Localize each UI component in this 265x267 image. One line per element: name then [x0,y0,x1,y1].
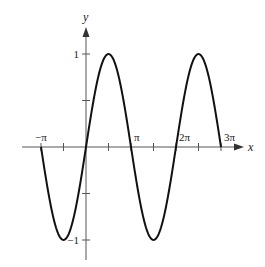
x-tick-label: π [134,131,140,143]
x-ticks: −ππ2π3π [35,131,236,151]
y-tick-label: 1 [74,48,80,60]
y-axis-label: y [82,10,89,24]
x-tick-label: 3π [224,131,236,143]
x-tick-label: 2π [179,131,191,143]
sine-chart: x y −ππ2π3π 1−1 [0,0,265,267]
x-axis-label: x [247,140,254,154]
y-axis-arrow [83,27,90,37]
y-tick-label: −1 [67,234,79,246]
x-axis-arrow [234,144,244,151]
x-tick-label: −π [35,131,47,143]
